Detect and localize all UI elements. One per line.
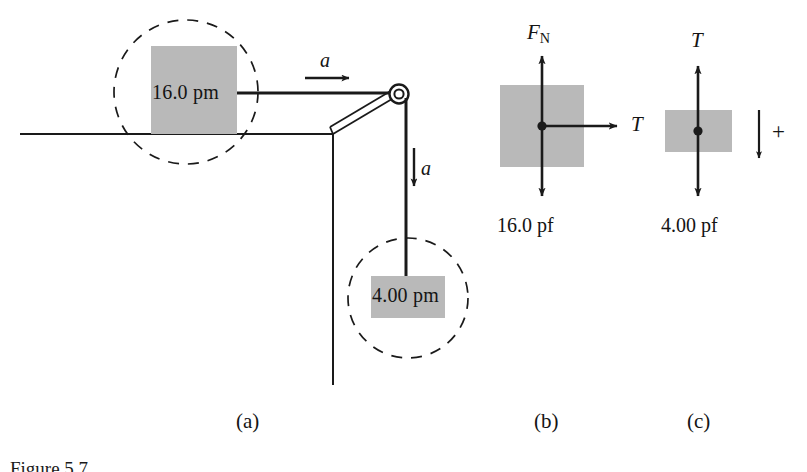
tension-label-c: T [691,30,703,51]
accel-label-horizontal: a [320,50,330,70]
panel-caption-a: (a) [236,411,259,432]
hanging-block-label: 4.00 pm [372,285,439,305]
table-block-label: 16.0 pm [152,82,219,102]
figure-caption: Figure 5.7 [10,459,88,472]
weight-label-b: 16.0 pf [497,215,554,235]
normal-force-label: FN [527,22,550,45]
pulley-bracket-end-cap [330,127,333,134]
fbd-b-center-dot [537,121,546,130]
tension-label-b: T [631,114,643,135]
pulley-wheel-inner [394,89,403,98]
panel-caption-b: (b) [534,411,559,432]
panel-c-group [665,66,759,196]
panel-caption-c: (c) [687,411,710,432]
accel-label-vertical: a [421,158,431,178]
normal-force-symbol: F [527,20,540,44]
normal-force-subscript: N [540,30,551,46]
figure-canvas [0,0,807,472]
pulley-bracket-lower-edge [333,96,397,134]
panel-b-group [500,56,617,196]
physics-figure: 16.0 pm 4.00 pm a a FN T 16.0 pf T 4.00 … [0,0,807,472]
weight-label-c: 4.00 pf [661,215,718,235]
panel-a-group [20,20,468,385]
fbd-c-center-dot [693,126,702,135]
pulley-bracket-upper-edge [330,89,394,127]
positive-direction-label: + [772,120,785,143]
